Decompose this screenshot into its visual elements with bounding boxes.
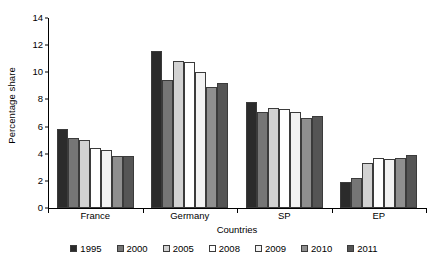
legend-label-2011: 2011 [357, 243, 377, 254]
bar-france-2005 [79, 140, 90, 208]
bar-ep-2000 [351, 178, 362, 208]
legend-item-1995: 1995 [70, 243, 101, 254]
legend-item-2008: 2008 [209, 243, 240, 254]
bar-france-2011 [123, 156, 134, 208]
bar-sp-2005 [268, 108, 279, 208]
bar-sp-2011 [312, 116, 323, 208]
y-axis-title-text: Percentage share [6, 67, 17, 144]
bar-ep-2009 [384, 159, 395, 208]
legend-label-2000: 2000 [127, 243, 148, 254]
category-label-ep: EP [332, 210, 427, 224]
bar-germany-2008 [184, 62, 195, 208]
legend-label-2005: 2005 [173, 243, 194, 254]
bar-france-2000 [68, 138, 79, 208]
bar-sp-2009 [290, 112, 301, 208]
bar-france-2008 [90, 148, 101, 208]
bar-sp-2010 [301, 118, 312, 208]
legend-label-2008: 2008 [219, 243, 240, 254]
bar-sp-1995 [246, 102, 257, 208]
x-axis-title: Countries [48, 224, 426, 235]
bar-ep-2008 [373, 158, 384, 208]
bars [340, 18, 417, 208]
legend-swatch-2008 [209, 245, 216, 252]
legend-item-2000: 2000 [117, 243, 148, 254]
legend-label-2010: 2010 [311, 243, 332, 254]
bar-group-sp [237, 18, 332, 208]
bar-germany-2005 [173, 61, 184, 208]
x-axis-category-labels: FranceGermanySPEP [48, 210, 426, 224]
bar-chart: Percentage share 02468101214 FranceGerma… [0, 0, 448, 272]
legend-item-2010: 2010 [301, 243, 332, 254]
bar-germany-2011 [217, 83, 228, 208]
legend-swatch-2009 [255, 245, 262, 252]
bar-germany-2010 [206, 87, 217, 208]
legend-label-1995: 1995 [80, 243, 101, 254]
legend-item-2005: 2005 [163, 243, 194, 254]
legend-swatch-1995 [70, 245, 77, 252]
legend-item-2011: 2011 [347, 243, 377, 254]
category-tick-4 [426, 208, 427, 213]
bar-ep-1995 [340, 182, 351, 208]
legend-swatch-2005 [163, 245, 170, 252]
legend-label-2009: 2009 [265, 243, 286, 254]
legend-swatch-2000 [117, 245, 124, 252]
bar-germany-2009 [195, 72, 206, 208]
category-label-sp: SP [237, 210, 332, 224]
bars [246, 18, 323, 208]
chart-legend: 1995200020052008200920102011 [0, 243, 448, 254]
bar-ep-2005 [362, 163, 373, 208]
y-axis-title: Percentage share [2, 0, 20, 210]
bar-group-ep [332, 18, 427, 208]
bar-groups [48, 18, 426, 208]
legend-item-2009: 2009 [255, 243, 286, 254]
bar-sp-2008 [279, 109, 290, 208]
bar-france-1995 [57, 129, 68, 208]
bar-group-germany [143, 18, 238, 208]
bar-group-france [48, 18, 143, 208]
bar-france-2010 [112, 156, 123, 208]
plot-area: 02468101214 [48, 18, 426, 208]
category-label-germany: Germany [143, 210, 238, 224]
category-label-france: France [48, 210, 143, 224]
bar-ep-2010 [395, 158, 406, 208]
bar-germany-2000 [162, 80, 173, 208]
legend-swatch-2011 [347, 245, 354, 252]
bar-sp-2000 [257, 112, 268, 208]
bar-france-2009 [101, 150, 112, 208]
bar-germany-1995 [151, 51, 162, 208]
legend-swatch-2010 [301, 245, 308, 252]
bars [57, 18, 134, 208]
bar-ep-2011 [406, 155, 417, 208]
bars [151, 18, 228, 208]
